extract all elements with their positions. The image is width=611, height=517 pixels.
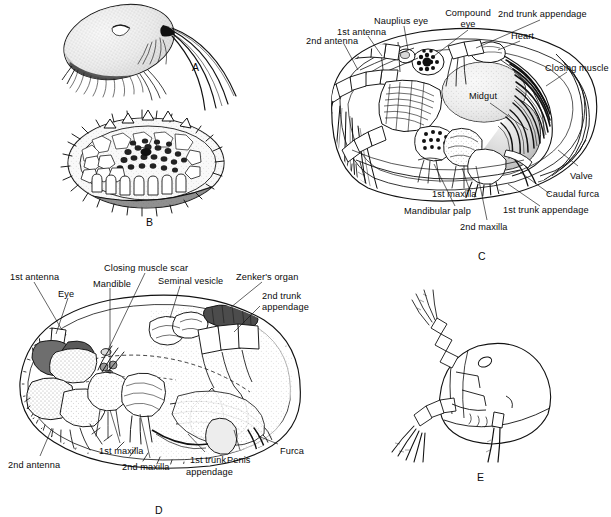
label-d-1st-antenna: 1st antenna — [10, 272, 59, 283]
figure-artwork — [0, 0, 611, 517]
label-d-1st-maxilla: 1st maxilla — [99, 446, 144, 457]
label-d-mandible: Mandible — [93, 279, 131, 290]
label-d-furca: Furca — [280, 446, 304, 457]
label-d-closing-muscle-scar: Closing muscle scar — [104, 263, 188, 274]
label-c-mandibular-palp: Mandibular palp — [404, 206, 471, 217]
panel-letter-a: A — [192, 61, 199, 73]
label-c-2nd-trunk-appendage: 2nd trunk appendage — [498, 9, 587, 20]
label-c-2nd-maxilla: 2nd maxilla — [460, 222, 508, 233]
label-d-seminal-vesicle: Seminal vesicle — [158, 276, 223, 287]
label-c-1st-antenna: 1st antenna — [337, 27, 386, 38]
label-d-zenker-s-organ: Zenker's organ — [236, 272, 298, 283]
label-d-appendage: appendage — [186, 467, 233, 478]
label-c-caudal-furca: Caudal furca — [546, 189, 599, 200]
label-d-eye: Eye — [58, 289, 74, 300]
label-d-2nd-antenna: 2nd antenna — [8, 460, 60, 471]
label-d-1st-trunk: 1st trunk — [190, 455, 226, 466]
label-d-penis: Penis — [227, 455, 250, 466]
panel-letter-b: B — [146, 216, 153, 228]
figure-plate: 2nd antenna1st antennaNauplius eyeCompou… — [0, 0, 611, 517]
label-d-appendage: appendage — [262, 302, 309, 313]
label-c-2nd-antenna: 2nd antenna — [306, 36, 358, 47]
panel-b-artwork — [61, 110, 224, 216]
label-c-1st-trunk-appendage: 1st trunk appendage — [503, 205, 589, 216]
panel-a-artwork — [56, 0, 236, 110]
label-c-valve: Valve — [570, 171, 593, 182]
label-d-2nd-maxilla: 2nd maxilla — [122, 462, 170, 473]
label-d-2nd-trunk: 2nd trunk — [262, 291, 301, 302]
label-c-closing-muscle: Closing muscle — [545, 63, 609, 74]
label-c-midgut: Midgut — [423, 91, 543, 102]
panel-letter-e: E — [477, 471, 484, 483]
panel-e-artwork — [392, 290, 551, 462]
label-c-heart: Heart — [511, 31, 534, 42]
label-c-1st-maxilla: 1st maxilla — [432, 189, 477, 200]
label-c-eye: eye — [408, 19, 528, 30]
panel-letter-c: C — [478, 250, 486, 262]
panel-letter-d: D — [155, 504, 163, 516]
